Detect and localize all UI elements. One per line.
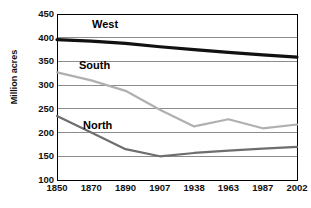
- x-axis-tick-labels: 18501870189019071938196319872002: [0, 183, 311, 203]
- series-label-south: South: [79, 60, 110, 71]
- line-chart: Million acres 450400350300250200150100 1…: [0, 0, 311, 208]
- series-line-west: [57, 40, 297, 58]
- x-tick-label-2002: 2002: [275, 183, 311, 193]
- series-label-north: North: [83, 120, 112, 131]
- data-series: [57, 40, 297, 157]
- series-label-west: West: [92, 19, 118, 30]
- plot-area: [0, 0, 311, 208]
